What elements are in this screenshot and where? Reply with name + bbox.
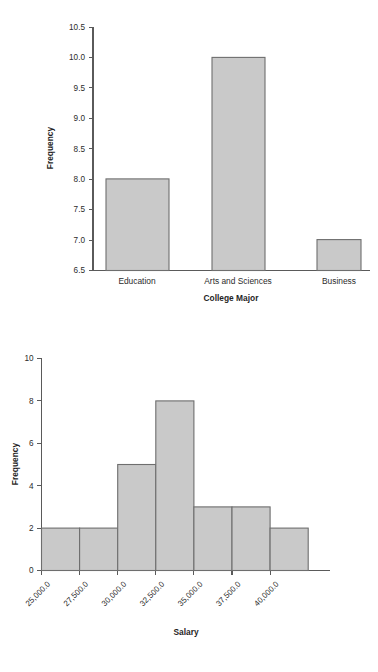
histogram-y-axis-title: Frequency xyxy=(10,442,20,485)
y-tick-label: 7.0 xyxy=(74,236,86,245)
histogram-bin-6 xyxy=(232,507,270,571)
y-tick-label: 8 xyxy=(29,397,34,406)
histogram-x-ticks xyxy=(42,571,271,576)
histogram-bin-1 xyxy=(42,528,80,570)
bar-business xyxy=(317,240,361,271)
bar-arts-and-sciences xyxy=(212,57,265,270)
x-tick-label-3: 30,000.0 xyxy=(100,579,129,608)
bar-education xyxy=(106,179,169,271)
y-tick-label: 0 xyxy=(29,566,34,575)
y-tick-label: 10 xyxy=(24,354,34,363)
bar-chart-y-axis-title: Frequency xyxy=(45,126,55,169)
y-tick-label: 10.0 xyxy=(69,53,85,62)
x-tick-label-5: 35,000.0 xyxy=(176,579,205,608)
y-tick-label: 4 xyxy=(29,482,34,491)
histogram-x-tick-labels: 25,000.0 27,500.0 30,000.0 32,500.0 35,0… xyxy=(24,579,281,608)
y-tick-label: 9.5 xyxy=(74,84,86,93)
y-tick-label: 8.0 xyxy=(74,175,86,184)
x-tick-label-2: 27,500.0 xyxy=(62,579,91,608)
y-tick-label: 10.5 xyxy=(69,23,85,32)
y-tick-label: 8.5 xyxy=(74,145,86,154)
x-tick-label-6: 37,500.0 xyxy=(214,579,243,608)
histogram-bin-4 xyxy=(156,401,194,571)
y-tick-label: 6.5 xyxy=(74,266,86,275)
y-tick-label: 9.0 xyxy=(74,114,86,123)
histogram-svg: 0 2 4 6 8 10 xyxy=(0,330,378,672)
x-tick-label-arts-and-sciences: Arts and Sciences xyxy=(204,276,272,286)
y-tick-label: 7.5 xyxy=(74,205,86,214)
y-tick-label: 2 xyxy=(29,524,34,533)
histogram-x-axis-title: Salary xyxy=(173,627,198,637)
histogram-bin-7 xyxy=(270,528,308,570)
salary-histogram-drawing: 0 2 4 6 8 10 xyxy=(0,330,378,672)
college-major-bar-chart: 6.5 7.0 7.5 8.0 8.5 9.0 9.5 10.0 10.5 xyxy=(0,0,378,330)
bar-chart-y-ticks: 6.5 7.0 7.5 8.0 8.5 9.0 9.5 10.0 10.5 xyxy=(69,23,93,275)
histogram-bin-3 xyxy=(118,465,156,571)
bar-chart-bars xyxy=(106,57,361,270)
histogram-bin-2 xyxy=(80,528,118,570)
x-tick-label-7: 40,000.0 xyxy=(252,579,281,608)
bar-chart-category-labels: Education Arts and Sciences Business xyxy=(118,276,356,286)
histogram-bars xyxy=(42,401,309,571)
x-tick-label-4: 32,500.0 xyxy=(138,579,167,608)
x-tick-label-1: 25,000.0 xyxy=(24,579,53,608)
x-tick-label-business: Business xyxy=(322,276,356,286)
bar-chart-canvas: 6.5 7.0 7.5 8.0 8.5 9.0 9.5 10.0 10.5 xyxy=(0,0,378,330)
x-tick-label-education: Education xyxy=(118,276,156,286)
y-tick-label: 6 xyxy=(29,439,34,448)
histogram-y-ticks: 0 2 4 6 8 10 xyxy=(24,354,41,575)
bar-chart-x-axis-title: College Major xyxy=(204,293,260,303)
histogram-bin-5 xyxy=(194,507,232,571)
